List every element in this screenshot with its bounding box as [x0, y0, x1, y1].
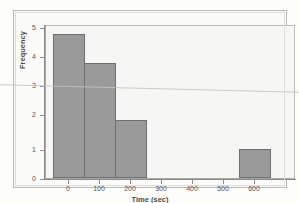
y-axis-tick — [40, 115, 45, 116]
y-axis-tick — [40, 57, 45, 58]
plot-area-frame — [45, 25, 295, 179]
x-axis-tick-label: 0 — [55, 185, 81, 192]
x-axis-tick — [161, 180, 162, 184]
figure-frame: of the distribution is shown in the hist… — [13, 10, 287, 188]
y-axis-tick-label: 0 — [14, 175, 36, 182]
x-axis-tick — [192, 180, 193, 184]
histogram-bar — [115, 120, 147, 178]
histogram-bar — [53, 34, 85, 178]
plot-area — [46, 26, 294, 178]
x-axis-tick-label: 400 — [179, 185, 205, 192]
x-axis-line — [44, 179, 296, 180]
x-axis-tick-label: 500 — [210, 185, 236, 192]
x-axis-tick-label: 300 — [148, 185, 174, 192]
y-axis-tick — [40, 28, 45, 29]
x-axis-tick — [68, 180, 69, 184]
y-axis-title: Frequency — [18, 31, 27, 69]
histogram-bar — [239, 149, 271, 178]
x-axis-tick — [99, 180, 100, 184]
y-axis-line — [44, 25, 45, 180]
x-axis-tick — [223, 180, 224, 184]
x-axis-title: Time (sec) — [14, 195, 286, 203]
y-axis-tick — [40, 86, 45, 87]
y-axis-tick — [40, 150, 45, 151]
x-axis-tick-label: 200 — [117, 185, 143, 192]
x-axis-tick-label: 600 — [241, 185, 267, 192]
y-axis-tick-label: 3 — [14, 82, 36, 89]
y-axis-tick-label: 2 — [14, 111, 36, 118]
histogram-bar — [84, 63, 116, 178]
x-axis-tick — [254, 180, 255, 184]
y-axis-tick-label: 1 — [14, 146, 36, 153]
y-axis-tick-label: 5 — [14, 24, 36, 31]
x-axis-tick — [130, 180, 131, 184]
y-axis-tick — [40, 179, 45, 180]
x-axis-tick-label: 100 — [86, 185, 112, 192]
